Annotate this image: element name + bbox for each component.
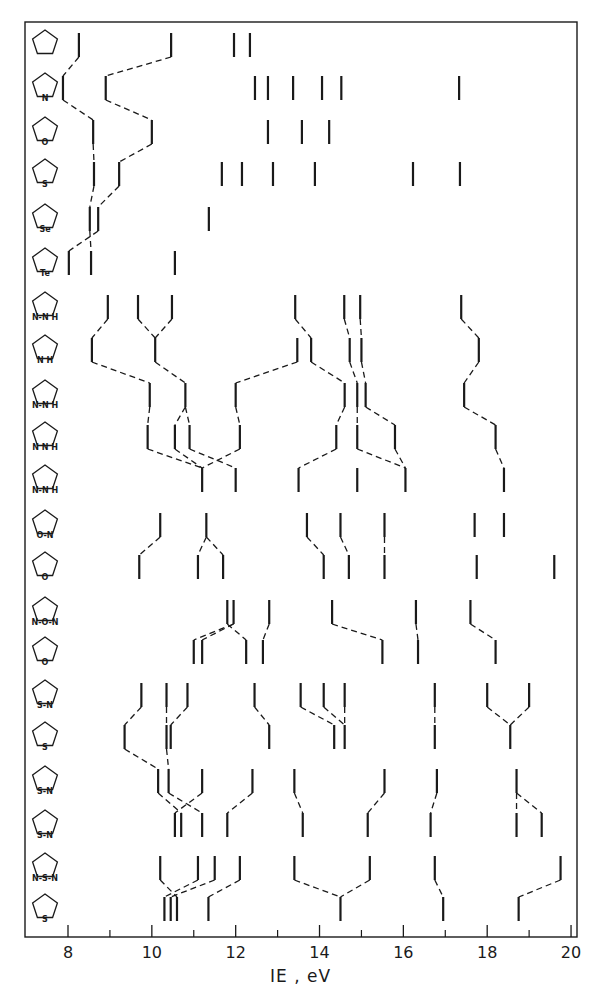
correlation-line — [295, 319, 311, 338]
molecule-icon: S-N — [33, 810, 58, 840]
correlation-line — [194, 624, 234, 640]
ring-icon — [33, 30, 58, 54]
ie-correlation-chart: NOSSeTeN-N HN HN-N HN N HN-N HO-NON-O-NO… — [0, 0, 601, 1000]
molecule-icon: S — [33, 894, 58, 924]
tick-label: 8 — [63, 943, 73, 962]
ring-icon — [33, 810, 58, 834]
correlation-line — [139, 537, 160, 555]
ring-icon — [33, 380, 58, 404]
molecule-icon: S — [33, 159, 58, 189]
molecule-icon: O — [33, 637, 58, 667]
heteroatom-label: N-N H — [32, 486, 58, 495]
correlation-line — [294, 880, 340, 897]
correlation-line — [357, 449, 405, 468]
heteroatom-label: S — [42, 743, 48, 752]
correlation-line — [185, 407, 189, 425]
tick-label: 16 — [393, 943, 413, 962]
correlation-line — [255, 707, 270, 725]
heteroatom-label: S — [42, 180, 48, 189]
tick-label: 12 — [226, 943, 246, 962]
correlation-line — [350, 362, 358, 383]
correlation-line — [340, 880, 369, 897]
correlation-line — [435, 880, 443, 897]
ring-icon — [33, 73, 58, 97]
plot-border — [25, 22, 577, 937]
molecule-icon: N — [33, 73, 58, 103]
correlation-line — [263, 624, 269, 640]
heteroatom-label: S — [42, 915, 48, 924]
x-axis-label: IE , eV — [0, 966, 601, 986]
correlation-line — [294, 793, 302, 813]
tick-label: 18 — [477, 943, 497, 962]
heteroatom-label: N-N H — [32, 313, 58, 322]
correlation-line — [464, 407, 495, 425]
correlation-line — [198, 537, 206, 555]
correlation-line — [202, 449, 240, 468]
correlation-line — [148, 407, 150, 425]
ring-icon — [33, 204, 58, 228]
correlation-line — [93, 144, 94, 162]
molecule-icon: Te — [33, 248, 58, 278]
correlation-line — [63, 57, 79, 76]
correlation-line — [208, 880, 239, 897]
ring-icon — [33, 510, 58, 534]
molecule-icon: N N H — [32, 422, 58, 452]
molecule-icon: N-S-N — [32, 853, 58, 883]
correlation-line — [307, 537, 324, 555]
ring-icon — [33, 159, 58, 183]
ring-icon — [33, 422, 58, 446]
heteroatom-label: S-N — [37, 701, 53, 710]
correlation-line — [125, 749, 159, 769]
ring-icon — [33, 597, 58, 621]
correlation-line — [366, 407, 395, 425]
molecule-icon: S-N — [33, 766, 58, 796]
correlation-line — [69, 231, 98, 251]
correlation-line — [361, 362, 365, 383]
heteroatom-label: O — [42, 138, 49, 147]
ring-icon — [33, 117, 58, 141]
correlation-line — [125, 707, 142, 725]
heteroatom-label: O — [42, 573, 49, 582]
correlation-line — [202, 624, 233, 640]
correlation-line — [92, 319, 108, 338]
correlation-line — [90, 231, 91, 251]
correlation-line — [119, 144, 152, 162]
correlation-line — [206, 537, 223, 555]
correlation-line — [311, 362, 345, 383]
correlation-line — [461, 319, 479, 338]
ie-bars — [63, 33, 561, 921]
tick-label: 14 — [309, 943, 329, 962]
correlation-line — [470, 624, 495, 640]
ring-icon — [33, 853, 58, 877]
heteroatom-label: N H — [37, 356, 53, 365]
ring-icon — [33, 465, 58, 489]
ring-icon — [33, 680, 58, 704]
correlation-line — [175, 449, 202, 468]
correlation-line — [158, 793, 181, 813]
correlation-line — [324, 707, 345, 725]
tick-label: 20 — [561, 943, 581, 962]
molecule-icon: O-N — [33, 510, 58, 540]
heteroatom-label: O — [42, 658, 49, 667]
ring-icon — [33, 552, 58, 576]
correlation-line — [227, 793, 252, 813]
molecule-icon: N H — [33, 335, 58, 365]
correlation-line — [98, 186, 119, 207]
heteroatom-label: Te — [40, 269, 50, 278]
ring-icon — [33, 335, 58, 359]
heteroatom-label: N-O-N — [32, 618, 59, 627]
correlation-line — [431, 793, 437, 813]
correlation-line — [236, 362, 298, 383]
x-axis: 8101214161820 — [63, 925, 581, 962]
correlation-line — [332, 624, 382, 640]
tick-label: 10 — [142, 943, 162, 962]
ring-icon — [33, 292, 58, 316]
correlation-line — [106, 57, 171, 76]
correlation-line — [344, 319, 349, 338]
correlation-line — [175, 407, 185, 425]
ring-icon — [33, 894, 58, 918]
heteroatom-label: N N H — [32, 443, 58, 452]
correlation-line — [236, 407, 240, 425]
correlation-line — [336, 407, 344, 425]
heteroatom-label: N-S-N — [32, 874, 58, 883]
